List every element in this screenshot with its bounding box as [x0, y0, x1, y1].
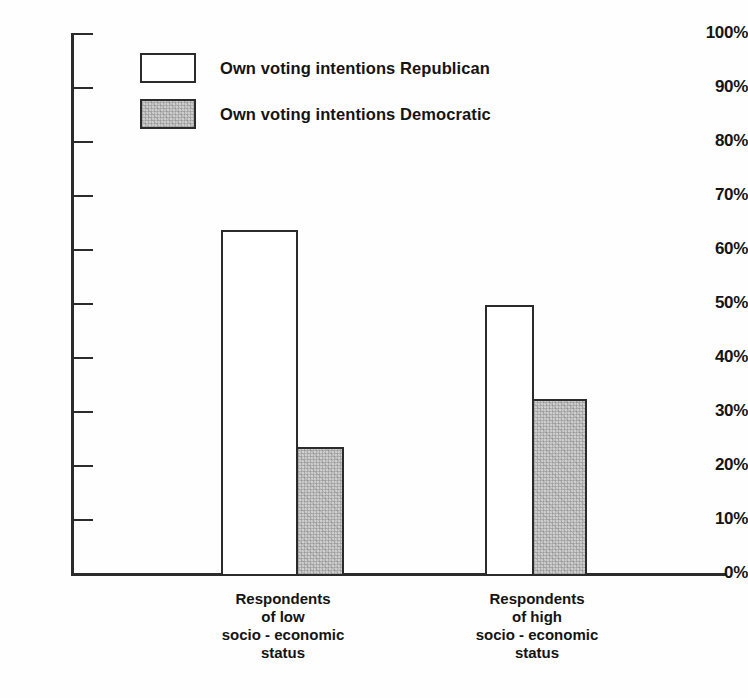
y-tick-label: 0%: [686, 563, 748, 583]
y-tick-mark: [74, 519, 93, 521]
legend-swatch-republican-icon: [140, 53, 196, 83]
y-tick-mark: [74, 303, 93, 305]
y-tick-label: 30%: [686, 401, 748, 421]
y-tick-label: 90%: [686, 77, 748, 97]
category-label-high: Respondents of high socio - economic sta…: [422, 590, 652, 662]
y-tick-label: 20%: [686, 455, 748, 475]
y-tick-label: 70%: [686, 185, 748, 205]
bar-high-republican: [485, 305, 534, 576]
y-tick-label: 50%: [686, 293, 748, 313]
y-tick-mark: [74, 141, 93, 143]
y-tick-label: 80%: [686, 131, 748, 151]
y-tick-mark: [74, 411, 93, 413]
y-tick-label: 40%: [686, 347, 748, 367]
category-label-low: Respondents of low socio - economic stat…: [168, 590, 398, 662]
legend-swatch-democratic-icon: [140, 99, 196, 129]
legend: Own voting intentions Republican Own vot…: [140, 45, 491, 137]
y-tick-mark: [74, 87, 93, 89]
y-tick-mark: [74, 465, 93, 467]
x-axis-line: [71, 573, 726, 576]
legend-item-republican: Own voting intentions Republican: [140, 45, 491, 91]
bar-low-republican: [221, 230, 298, 576]
legend-item-democratic: Own voting intentions Democratic: [140, 91, 491, 137]
bar-chart: 100% 90% 80% 70% 60% 50% 40% 30% 20% 10%…: [0, 0, 748, 698]
y-tick-label: 10%: [686, 509, 748, 529]
y-tick-label: 60%: [686, 239, 748, 259]
legend-label-democratic: Own voting intentions Democratic: [220, 105, 491, 124]
y-tick-mark: [74, 195, 93, 197]
bar-low-democratic: [296, 447, 344, 576]
bar-high-democratic: [532, 399, 587, 576]
legend-label-republican: Own voting intentions Republican: [220, 59, 490, 78]
y-tick-mark: [74, 249, 93, 251]
y-tick-mark: [74, 357, 93, 359]
y-tick-mark: [74, 33, 93, 35]
y-tick-label: 100%: [686, 23, 748, 43]
